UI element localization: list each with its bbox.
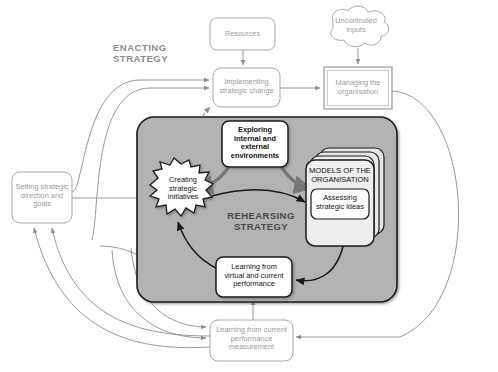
node-learning-virtual-current bbox=[216, 257, 292, 297]
node-learning-current-measurement bbox=[210, 320, 293, 361]
node-implementing-strategic-change bbox=[213, 68, 280, 107]
node-managing-the-organisation-inner bbox=[328, 71, 389, 106]
node-resources bbox=[210, 18, 275, 50]
node-uncontrolled-inputs bbox=[331, 6, 389, 46]
diagram-canvas bbox=[0, 0, 498, 372]
node-setting-strategic-direction bbox=[12, 172, 72, 223]
node-assessing-strategic-ideas bbox=[311, 189, 369, 219]
node-exploring-environments bbox=[222, 121, 288, 167]
strategy-cycle-diagram: ENACTING STRATEGY REHEARSING STRATEGY Re… bbox=[0, 0, 498, 372]
